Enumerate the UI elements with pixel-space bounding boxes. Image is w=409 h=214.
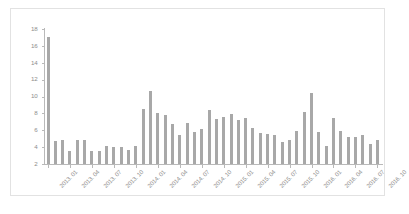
bar [47, 37, 50, 164]
bar [354, 137, 357, 164]
y-axis-tick-mark [42, 46, 45, 47]
y-axis-tick-label: 6 [22, 127, 38, 133]
y-axis-tick-mark [42, 147, 45, 148]
bar [76, 140, 79, 164]
bar [142, 109, 145, 164]
bar [317, 132, 320, 164]
x-axis-tick-mark [92, 165, 93, 168]
x-axis-tick-label: 2013. 04 [80, 169, 101, 190]
x-axis-tick-label: 2013. 10 [124, 169, 145, 190]
bar [90, 151, 93, 165]
x-axis-tick-mark [180, 165, 181, 168]
x-axis-tick-label: 2013. 01 [58, 169, 79, 190]
bar [68, 151, 71, 164]
x-axis-tick-mark [70, 165, 71, 168]
bar [120, 147, 123, 164]
x-axis-tick-label: 2016. 07 [366, 169, 387, 190]
x-axis-tick-mark [136, 165, 137, 168]
bar [376, 140, 379, 164]
bar [251, 128, 254, 164]
y-axis-tick-mark [42, 29, 45, 30]
y-axis-tick-mark [42, 80, 45, 81]
bar [281, 142, 284, 164]
x-axis-tick-mark [355, 165, 356, 168]
x-axis-tick-mark [224, 165, 225, 168]
bar [288, 140, 291, 164]
y-axis-tick-mark [42, 97, 45, 98]
bar [171, 124, 174, 165]
y-axis-tick-mark [42, 164, 45, 165]
x-axis-tick-label: 2016. 01 [322, 169, 343, 190]
bar [61, 140, 64, 164]
x-axis-tick-label: 2015. 01 [234, 169, 255, 190]
bar [325, 146, 328, 164]
bar [134, 146, 137, 164]
bar [332, 118, 335, 164]
x-axis-tick-mark [202, 165, 203, 168]
x-axis-tick-label: 2015. 07 [278, 169, 299, 190]
x-axis-tick-label: 2014. 01 [146, 169, 167, 190]
bar [295, 131, 298, 164]
bar [149, 91, 152, 164]
bar [112, 147, 115, 164]
x-axis-tick-label: 2016. 10 [388, 169, 409, 190]
bar [339, 131, 342, 164]
x-axis-tick-mark [48, 165, 49, 168]
y-axis-tick-label: 16 [22, 43, 38, 49]
bar [310, 93, 313, 164]
y-axis-tick-label: 8 [22, 110, 38, 116]
bar [273, 135, 276, 164]
y-axis-tick-label: 4 [22, 144, 38, 150]
y-axis-tick-label: 12 [22, 76, 38, 82]
x-axis-tick-mark [377, 165, 378, 168]
x-axis-tick-label: 2015. 10 [300, 169, 321, 190]
bar [266, 134, 269, 164]
bar [164, 115, 167, 164]
x-axis-tick-label: 2015. 04 [256, 169, 277, 190]
x-axis-tick-mark [158, 165, 159, 168]
bar [208, 110, 211, 164]
bar [127, 150, 130, 164]
x-axis-tick-label: 2013. 07 [102, 169, 123, 190]
y-axis-tick-label: 14 [22, 60, 38, 66]
y-axis-tick-mark [42, 113, 45, 114]
bar [186, 123, 189, 164]
x-axis-tick-mark [246, 165, 247, 168]
x-axis-tick-label: 2016. 04 [344, 169, 365, 190]
x-axis-tick-mark [268, 165, 269, 168]
bar [178, 135, 181, 164]
bar [193, 132, 196, 164]
x-axis-tick-label: 2014. 04 [168, 169, 189, 190]
bar [361, 135, 364, 164]
bar [347, 137, 350, 164]
x-axis-tick-mark [290, 165, 291, 168]
y-axis-tick-label: 18 [22, 26, 38, 32]
bar [156, 113, 159, 164]
bar [230, 114, 233, 164]
bar [369, 144, 372, 164]
y-axis-tick-mark [42, 63, 45, 64]
y-axis-tick-label: 2 [22, 161, 38, 167]
bar [259, 133, 262, 164]
bar [54, 141, 57, 164]
bar [222, 117, 225, 164]
bar [105, 146, 108, 164]
bar [83, 140, 86, 164]
bar [98, 151, 101, 165]
bar [244, 118, 247, 164]
x-axis-tick-label: 2014. 07 [190, 169, 211, 190]
bar [215, 119, 218, 164]
x-axis-tick-mark [333, 165, 334, 168]
bar [200, 129, 203, 164]
x-axis-tick-mark [114, 165, 115, 168]
y-axis-tick-label: 10 [22, 93, 38, 99]
bar [303, 112, 306, 164]
x-axis-tick-mark [312, 165, 313, 168]
y-axis-tick-mark [42, 130, 45, 131]
x-axis-tick-label: 2014. 10 [212, 169, 233, 190]
bar [237, 120, 240, 164]
